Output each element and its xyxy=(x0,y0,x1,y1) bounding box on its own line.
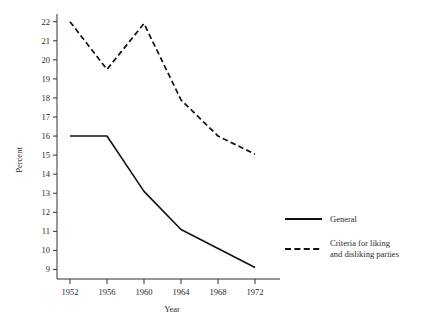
legend-label-criteria-line2: and disliking parties xyxy=(330,249,399,259)
y-tick-label: 9 xyxy=(46,264,50,274)
y-tick-label: 14 xyxy=(42,169,51,179)
series-line-general xyxy=(70,136,255,268)
y-tick-label: 17 xyxy=(42,112,51,122)
line-chart: 910111213141516171819202122 195219561960… xyxy=(0,0,427,320)
y-tick-label: 13 xyxy=(42,188,51,198)
y-tick-label: 20 xyxy=(42,55,51,65)
y-tick-label: 12 xyxy=(42,207,51,217)
x-tick-label: 1968 xyxy=(210,287,227,297)
y-tick-label: 19 xyxy=(42,74,51,84)
x-axis-tick-group: 195219561960196419681972 xyxy=(61,279,263,297)
y-tick-label: 22 xyxy=(42,17,51,27)
y-axis-title: Percent xyxy=(14,147,24,173)
x-axis-title: Year xyxy=(164,304,180,314)
x-tick-label: 1964 xyxy=(173,287,191,297)
y-axis-tick-group: 910111213141516171819202122 xyxy=(42,17,58,275)
legend-label-criteria-line1: Criteria for liking xyxy=(330,238,391,248)
y-tick-label: 11 xyxy=(42,226,50,236)
x-tick-label: 1956 xyxy=(98,287,115,297)
legend-label-general: General xyxy=(330,214,358,224)
chart-legend: General Criteria for liking and dislikin… xyxy=(285,214,399,259)
chart-container: 910111213141516171819202122 195219561960… xyxy=(0,0,427,320)
y-tick-label: 21 xyxy=(42,36,51,46)
y-tick-label: 10 xyxy=(42,245,51,255)
y-tick-label: 15 xyxy=(42,150,51,160)
x-tick-label: 1960 xyxy=(135,287,152,297)
y-tick-label: 16 xyxy=(42,131,51,141)
x-tick-label: 1952 xyxy=(61,287,78,297)
x-tick-label: 1972 xyxy=(247,287,264,297)
series-line-criteria xyxy=(70,22,255,154)
y-tick-label: 18 xyxy=(42,93,51,103)
